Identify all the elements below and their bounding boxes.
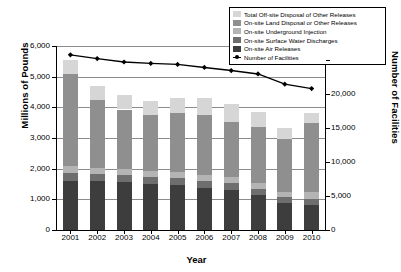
facilities-line-series xyxy=(57,46,325,230)
y-tick-left xyxy=(52,77,56,78)
x-tick xyxy=(312,230,313,234)
legend-item: Total Off-site Disposal of Other Release… xyxy=(233,10,382,19)
facilities-data-point xyxy=(148,61,153,66)
facilities-data-point xyxy=(175,62,180,67)
y-tick-label-left: 2,000 xyxy=(4,165,50,173)
x-tick xyxy=(231,230,232,234)
y-tick-label-left: 0 xyxy=(4,226,50,234)
y-tick-left xyxy=(52,199,56,200)
y-tick-label-right: 15,000 xyxy=(331,124,375,132)
y-tick-right xyxy=(326,94,330,95)
legend-item: On-site Air Releases xyxy=(233,44,382,53)
legend-label: On-site Land Disposal or Other Releases xyxy=(244,19,357,26)
x-tick xyxy=(258,230,259,234)
legend-label: On-site Underground Injection xyxy=(244,28,327,35)
x-tick xyxy=(178,230,179,234)
y-tick-label-right: 5,000 xyxy=(331,192,375,200)
facilities-data-point xyxy=(68,52,73,57)
legend-label: On-site Air Releases xyxy=(244,45,300,52)
y-tick-right xyxy=(326,128,330,129)
y-tick-left xyxy=(52,107,56,108)
legend-swatch xyxy=(233,37,241,43)
legend-swatch xyxy=(233,20,241,26)
legend: Total Off-site Disposal of Other Release… xyxy=(229,7,386,65)
x-tick xyxy=(151,230,152,234)
y-tick-label-left: 6,000 xyxy=(4,42,50,50)
legend-label: Number of Facilities xyxy=(244,54,299,61)
y-tick-right xyxy=(326,60,330,61)
x-tick xyxy=(70,230,71,234)
x-tick xyxy=(204,230,205,234)
legend-item: On-site Land Disposal or Other Releases xyxy=(233,19,382,28)
y-tick-label-left: 5,000 xyxy=(4,73,50,81)
y-tick-left xyxy=(52,46,56,47)
y-tick-left xyxy=(52,138,56,139)
x-tick xyxy=(285,230,286,234)
y-tick-label-right: 0 xyxy=(331,226,375,234)
legend-label: Total Off-site Disposal of Other Release… xyxy=(244,11,356,18)
facilities-data-point xyxy=(309,86,314,91)
y-tick-label-left: 1,000 xyxy=(4,195,50,203)
y-tick-left xyxy=(52,230,56,231)
x-tick-label: 2010 xyxy=(295,233,329,242)
x-tick xyxy=(97,230,98,234)
legend-item: On-site Surface Water Discharges xyxy=(233,36,382,45)
y-axis-right-line xyxy=(325,46,326,231)
facilities-data-point xyxy=(95,56,100,61)
plot-area xyxy=(57,46,325,230)
y-tick-label-left: 4,000 xyxy=(4,103,50,111)
y-tick-right xyxy=(326,196,330,197)
y-axis-left-ticks: 01,0002,0003,0004,0005,0006,000 xyxy=(0,0,50,272)
legend-swatch xyxy=(233,46,241,52)
legend-item: On-site Underground Injection xyxy=(233,27,382,36)
x-tick xyxy=(124,230,125,234)
y-tick-label-left: 3,000 xyxy=(4,134,50,142)
y-tick-right xyxy=(326,162,330,163)
y-tick-label-right: 10,000 xyxy=(331,158,375,166)
legend-label: On-site Surface Water Discharges xyxy=(244,37,338,44)
facilities-data-point xyxy=(202,65,207,70)
legend-line-marker-icon xyxy=(233,54,241,60)
legend-item: Number of Facilities xyxy=(233,53,382,62)
y-tick-right xyxy=(326,230,330,231)
legend-swatch xyxy=(233,11,241,17)
facilities-data-point xyxy=(229,68,234,73)
y-tick-left xyxy=(52,169,56,170)
y-axis-right-title: Number of Facilities xyxy=(390,28,401,168)
facilities-data-point xyxy=(255,71,260,76)
y-tick-label-right: 20,000 xyxy=(331,90,375,98)
legend-swatch xyxy=(233,28,241,34)
facilities-data-point xyxy=(121,59,126,64)
facilities-data-point xyxy=(282,82,287,87)
